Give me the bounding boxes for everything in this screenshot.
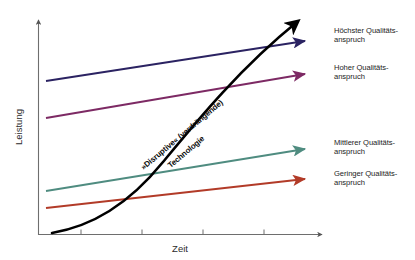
disruptive-technology-diagram: Leistung Zeit »Disruptive« (verdrängende…	[0, 0, 415, 260]
x-axis-title: Zeit	[172, 243, 188, 254]
legend-label-line2: anspruch	[334, 72, 365, 81]
legend-label-line1: Mittlerer Qualitäts-	[334, 138, 395, 147]
legend-label-line1: Hoher Qualitäts-	[334, 63, 389, 72]
legend-label-line2: anspruch	[334, 178, 365, 187]
trend-lines-group	[46, 41, 305, 208]
legend-label-line1: Höchster Qualitäts-	[334, 26, 398, 35]
legend-label-hoechster-qualitaetsanspruch: Höchster Qualitäts-anspruch	[334, 26, 414, 45]
trend-line-geringer-qualitaetsanspruch	[46, 179, 305, 208]
trend-line-hoher-qualitaetsanspruch	[46, 74, 305, 118]
y-axis-title: Leistung	[13, 109, 24, 145]
legend-label-line2: anspruch	[334, 147, 365, 156]
axes-group	[38, 20, 322, 235]
legend-label-hoher-qualitaetsanspruch: Hoher Qualitäts-anspruch	[334, 63, 414, 82]
legend-label-line1: Geringer Qualitäts-	[334, 169, 397, 178]
disruptive-technology-curve	[52, 22, 297, 233]
legend-label-geringer-qualitaetsanspruch: Geringer Qualitäts-anspruch	[334, 169, 414, 188]
disruptive-technology-curve-group	[52, 22, 297, 233]
legend-label-mittlerer-qualitaetsanspruch: Mittlerer Qualitäts-anspruch	[334, 138, 414, 157]
legend-label-line2: anspruch	[334, 35, 365, 44]
